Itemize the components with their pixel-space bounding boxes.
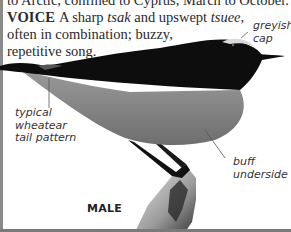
perch-branch <box>135 168 196 232</box>
cap-leader-line <box>241 32 248 38</box>
annotation-buff-underside: buff underside <box>233 156 288 181</box>
bird-eye <box>232 44 234 46</box>
annotation-greyish-cap: greyish cap <box>253 20 291 45</box>
sex-label: MALE <box>87 202 122 215</box>
annotation-tail-pattern: typical wheatear tail pattern <box>15 107 76 145</box>
page-bottom-border <box>0 229 291 232</box>
field-guide-page: to Arctic, confined to Cyprus, March to … <box>0 0 291 232</box>
